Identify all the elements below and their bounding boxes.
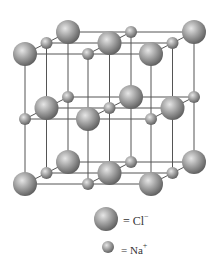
legend-chloride-label: = Cl− [123,211,149,228]
chloride-ion-icon [98,161,122,185]
chloride-charge: − [144,212,149,221]
legend-icons [94,207,118,253]
sodium-legend-icon [102,241,114,253]
chloride-ion-icon [98,31,122,55]
sodium-ion-icon [167,37,179,49]
sodium-ion-icon [125,26,137,38]
chloride-ion-icon [35,96,59,120]
chloride-ion-icon [56,20,80,44]
chloride-ion-icon [182,150,206,174]
sodium-ion-icon [82,178,94,190]
sodium-ion-icon [125,156,137,168]
sodium-label-text: = Na [121,244,143,256]
chloride-ion-icon [119,85,143,109]
sodium-ion-icon [19,113,31,125]
chloride-ion-icon [76,107,100,131]
chloride-ion-icon [56,150,80,174]
sodium-ion-icon [188,91,200,103]
lattice-ions [13,20,206,196]
sodium-ion-icon [82,48,94,60]
chloride-ion-icon [13,42,37,66]
chloride-ion-icon [139,42,163,66]
legend-sodium-label: = Na+ [121,240,147,257]
sodium-ion-icon [167,167,179,179]
nacl-lattice-diagram [0,0,218,261]
sodium-charge: + [143,241,148,250]
sodium-ion-icon [41,37,53,49]
chloride-ion-icon [182,20,206,44]
chloride-ion-icon [161,96,185,120]
sodium-ion-icon [104,102,116,114]
sodium-ion-icon [145,113,157,125]
chloride-ion-icon [139,172,163,196]
sodium-ion-icon [41,167,53,179]
chloride-label-text: = Cl [123,214,144,228]
chloride-legend-icon [94,207,118,231]
chloride-ion-icon [13,172,37,196]
sodium-ion-icon [62,91,74,103]
